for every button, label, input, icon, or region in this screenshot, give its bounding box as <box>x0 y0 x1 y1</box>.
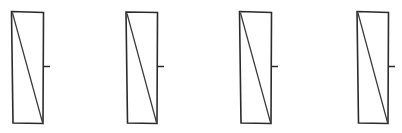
panel-group-3[interactable] <box>240 12 279 124</box>
panel-group-2[interactable] <box>126 12 164 124</box>
diagram-canvas <box>0 0 402 133</box>
panel-series-figure <box>0 0 402 133</box>
panel-group-4[interactable] <box>357 12 395 124</box>
panel-group-1[interactable] <box>12 12 51 124</box>
